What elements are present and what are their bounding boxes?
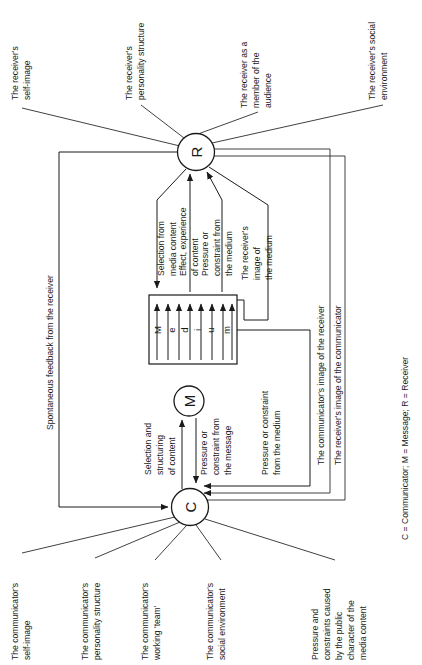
label-communicators-image-of-receiver: The communicator's image of the receiver [316, 305, 326, 465]
label-effect-line1: Effect, experience [178, 207, 188, 276]
label-receivers-image-of-medium: The receiver's image of the medium [240, 226, 274, 280]
label-pressure-constraint-medium-upper: Pressure or constraint from the medium [200, 219, 234, 276]
label-spontaneous-feedback-text: Spontaneous feedback from the receiver [45, 275, 55, 430]
label-receiver-social-line2: environment [379, 52, 389, 100]
communication-model-diagram: R C M M e d i u m [0, 0, 422, 665]
label-ssc-line2: structuring [155, 435, 165, 475]
label-selection-from-media-content: Selection from media content [156, 221, 178, 276]
diagram-legend: C = Communicator; M = Message; R = Recei… [400, 357, 410, 540]
label-receiver-personality-structure: The receiver's personality structure [124, 22, 146, 100]
label-communicator-social-environment: The communicator's social environment [205, 583, 227, 660]
label-cm-soc-line1: The communicator's [205, 583, 215, 660]
label-cm-pers-line2: personality structure [92, 582, 102, 660]
diagram-canvas: R C M M e d i u m [0, 0, 422, 665]
label-cm-team-line2: working 'team' [152, 605, 162, 661]
label-receiver-self-image-line1: The receiver's [10, 46, 20, 100]
medium-letter-3: i [192, 329, 203, 331]
label-receiver-social-environment: The receiver's social environment [367, 22, 389, 100]
label-pcms-line2: constraint from [211, 418, 221, 475]
label-receiver-self-image: The receiver's self-image [10, 46, 32, 100]
label-pcpc-line1: Pressure and [310, 609, 320, 660]
label-receiver-social-line1: The receiver's social [367, 22, 377, 100]
label-cm-self-line2: self-image [22, 620, 32, 660]
communicator-node-label: C [182, 501, 199, 512]
label-pcms-line3: the message [223, 426, 233, 475]
label-pcms-line1: Pressure or [199, 430, 209, 475]
label-pcm-upper-line2: constraint from [212, 219, 222, 276]
medium-letter-5: m [221, 326, 232, 334]
label-rim-line3: the medium [264, 235, 274, 280]
receiver-node-label: R [188, 146, 205, 157]
label-receiver-audience-line3: audience [263, 73, 273, 108]
label-receiver-audience-line1: The receiver as a [239, 41, 249, 108]
label-communicator-working-team: The communicator's working 'team' [140, 583, 162, 661]
label-receiver-personality-line2: personality structure [136, 22, 146, 100]
medium-letter-4: u [205, 327, 216, 332]
label-receiver-personality-line1: The receiver's [124, 46, 134, 100]
label-pcpc-line2: constraints caused [322, 588, 332, 660]
communicator-label-connectors [22, 517, 335, 560]
label-rim-line1: The receiver's [240, 226, 250, 280]
medium-letter-0: M [152, 326, 163, 334]
label-communicator-personality-structure: The communicator's personality structure [80, 582, 102, 660]
label-selection-structuring-of-content: Selection and structuring of content [143, 423, 177, 475]
label-selection-media-line1: Selection from [156, 221, 166, 276]
label-pressure-constraint-from-message: Pressure or constraint from the message [199, 418, 233, 475]
label-pcm-upper-line1: Pressure or [200, 231, 210, 276]
label-receivers-image-of-communicator: The receiver's image of the communicator [333, 305, 343, 465]
label-spontaneous-feedback: Spontaneous feedback from the receiver [45, 275, 55, 430]
label-pcpc-line5: media content [358, 605, 368, 660]
label-cm-team-line1: The communicator's [140, 583, 150, 660]
label-receiver-self-image-line2: self-image [22, 60, 32, 100]
medium-letter-1: e [166, 327, 177, 332]
label-pressure-constraint-medium-lower: Pressure or constraint from the medium [260, 390, 282, 475]
label-pcm-lower-line2: from the medium [272, 411, 282, 475]
label-receiver-as-audience-member: The receiver as a member of the audience [239, 41, 273, 108]
label-selection-media-line2: media content [168, 221, 178, 276]
label-pcpc-line4: character of the [346, 600, 356, 660]
label-ssc-line3: of content [167, 437, 177, 475]
label-pressure-constraints-public-character: Pressure and constraints caused by the p… [310, 588, 368, 660]
label-effect-experience-of-content: Effect, experience of content [178, 207, 200, 276]
label-cm-self-line1: The communicator's [10, 583, 20, 660]
label-pcm-lower-line1: Pressure or constraint [260, 390, 270, 475]
label-receiver-audience-line2: member of the [251, 52, 261, 108]
label-ric-text: The receiver's image of the communicator [333, 305, 343, 465]
label-pcpc-line3: by the public [334, 611, 344, 660]
label-cm-pers-line1: The communicator's [80, 583, 90, 660]
label-ssc-line1: Selection and [143, 423, 153, 475]
legend-text: C = Communicator; M = Message; R = Recei… [400, 357, 410, 540]
label-cir-text: The communicator's image of the receiver [316, 305, 326, 465]
label-cm-soc-line2: social environment [217, 588, 227, 660]
label-pcm-upper-line3: the medium [224, 231, 234, 276]
medium-letter-2: d [179, 327, 190, 332]
label-communicator-self-image: The communicator's self-image [10, 583, 32, 660]
message-node-label: M [181, 395, 198, 408]
label-effect-line2: of content [190, 238, 200, 276]
label-rim-line2: image of [252, 246, 262, 280]
